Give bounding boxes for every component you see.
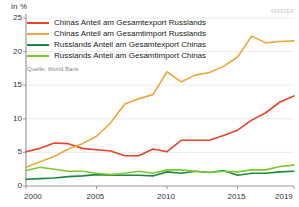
legend-swatch-import-china <box>27 55 49 57</box>
x-tick-label: 2015 <box>228 192 246 201</box>
x-tick-label: 2005 <box>87 192 105 201</box>
y-tick-label: 15 <box>0 80 22 89</box>
legend-label-export-russia: Chinas Anteil am Gesamtexport Russlands <box>54 17 206 28</box>
legend-swatch-import-russia <box>27 33 49 35</box>
y-tick-label: 20 <box>0 47 22 56</box>
legend-label-import-china: Russlands Anteil am Gesamtimport Chinas <box>54 50 206 61</box>
legend-swatch-export-russia <box>27 22 49 24</box>
legend-item-export-china[interactable]: Russlands Anteil am Gesamtexport Chinas <box>27 39 206 50</box>
y-tick-label: 5 <box>0 147 22 156</box>
series-line <box>26 96 294 156</box>
source-note: Quelle: World Bank <box>27 66 79 72</box>
legend: Chinas Anteil am Gesamtexport Russlands … <box>27 17 206 61</box>
legend-item-import-russia[interactable]: Chinas Anteil am Gesamtimport Russlands <box>27 28 206 39</box>
legend-swatch-export-china <box>27 44 49 46</box>
x-tick-label: 2010 <box>157 192 175 201</box>
legend-item-export-russia[interactable]: Chinas Anteil am Gesamtexport Russlands <box>27 17 206 28</box>
x-tick-label: 2000 <box>24 192 42 201</box>
y-tick-label: 0 <box>0 181 22 190</box>
chart-container: in % 43002EX 0510152025 2000200520102015… <box>0 0 299 207</box>
legend-label-import-russia: Chinas Anteil am Gesamtimport Russlands <box>54 28 206 39</box>
x-tick-label: 2019 <box>275 192 293 201</box>
legend-label-export-china: Russlands Anteil am Gesamtexport Chinas <box>54 39 206 50</box>
y-tick-label: 25 <box>0 13 22 22</box>
y-tick-label: 10 <box>0 114 22 123</box>
legend-item-import-china[interactable]: Russlands Anteil am Gesamtimport Chinas <box>27 50 206 61</box>
